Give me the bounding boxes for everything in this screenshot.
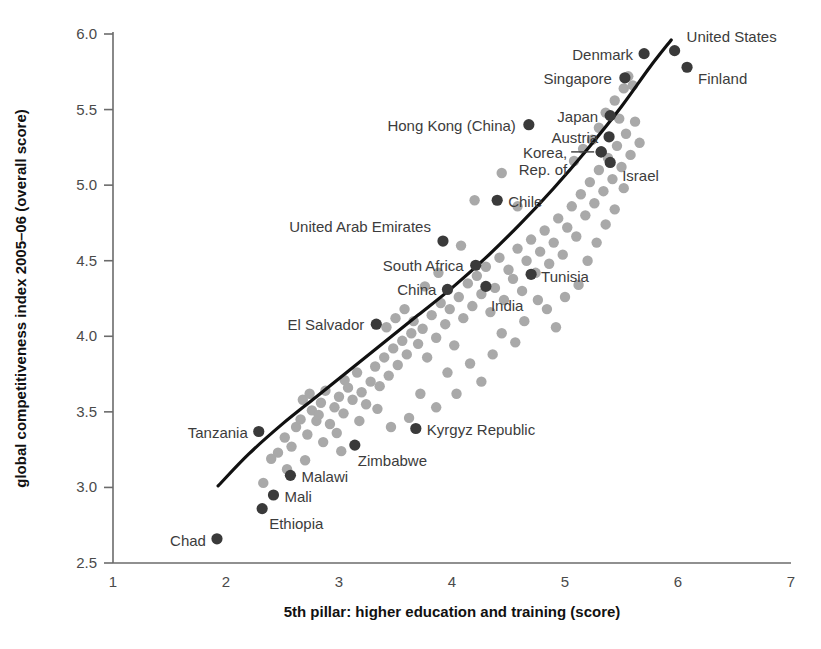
data-point	[469, 195, 479, 205]
y-tick-label: 3.0	[76, 478, 97, 495]
country-label: Mali	[284, 488, 312, 505]
data-point	[370, 361, 380, 371]
country-label: Kyrgyz Republic	[427, 421, 536, 438]
highlighted-data-point	[470, 260, 481, 271]
highlighted-data-point	[253, 426, 264, 437]
data-point	[630, 116, 640, 126]
data-point	[521, 256, 531, 266]
data-point	[415, 389, 425, 399]
x-tick-label: 7	[787, 573, 795, 590]
data-point	[406, 328, 416, 338]
data-point	[413, 339, 423, 349]
scatter-chart: 2.53.03.54.04.55.05.56.0 1234567 United …	[0, 0, 821, 649]
x-tick-label: 6	[674, 573, 682, 590]
country-label: Malawi	[301, 468, 348, 485]
y-tick-label: 6.0	[76, 25, 97, 42]
data-point	[634, 138, 644, 148]
data-point	[454, 292, 464, 302]
data-point	[497, 168, 507, 178]
x-tick-label: 2	[222, 573, 230, 590]
country-label: Tanzania	[188, 424, 249, 441]
data-point	[280, 432, 290, 442]
x-tick-label: 5	[561, 573, 569, 590]
data-point	[533, 295, 543, 305]
data-point	[365, 376, 375, 386]
x-tick-label: 4	[448, 573, 456, 590]
country-label: Ethiopia	[269, 515, 324, 532]
data-point	[585, 177, 595, 187]
data-point	[508, 274, 518, 284]
data-point	[510, 337, 520, 347]
highlighted-data-point	[523, 119, 534, 130]
country-label: India	[491, 297, 524, 314]
country-label: United Arab Emirates	[289, 218, 431, 235]
data-point	[404, 413, 414, 423]
country-label: Singapore	[543, 70, 611, 87]
data-point	[318, 437, 328, 447]
data-point	[487, 349, 497, 359]
country-label: Hong Kong (China)	[387, 117, 515, 134]
country-label: Japan	[557, 108, 598, 125]
country-label: Chad	[170, 532, 206, 549]
data-point	[591, 237, 601, 247]
data-point	[393, 360, 403, 370]
data-point	[598, 186, 608, 196]
data-point	[325, 419, 335, 429]
y-tick-label: 2.5	[76, 554, 97, 571]
data-point	[313, 410, 323, 420]
data-point	[494, 252, 504, 262]
data-point	[381, 322, 391, 332]
data-point	[379, 352, 389, 362]
data-point	[612, 141, 622, 151]
data-point	[300, 455, 310, 465]
data-point	[600, 219, 610, 229]
data-point	[458, 313, 468, 323]
highlighted-data-point	[371, 319, 382, 330]
data-point	[316, 398, 326, 408]
country-label: South Africa	[383, 257, 465, 274]
x-axis-ticks: 1234567	[109, 573, 795, 590]
data-point	[431, 333, 441, 343]
data-point	[567, 201, 577, 211]
highlighted-data-point	[492, 195, 503, 206]
data-point	[354, 416, 364, 426]
data-point	[560, 292, 570, 302]
data-point	[456, 240, 466, 250]
data-point	[503, 265, 513, 275]
data-point	[390, 313, 400, 323]
data-point	[422, 352, 432, 362]
country-label: Zimbabwe	[358, 452, 427, 469]
country-label: Israel	[622, 167, 659, 184]
country-label: Denmark	[572, 46, 633, 63]
data-point	[517, 286, 527, 296]
data-point	[553, 213, 563, 223]
data-point	[589, 198, 599, 208]
data-point	[549, 237, 559, 247]
country-label: United States	[687, 28, 777, 45]
data-point-labels: United StatesDenmarkFinlandSingaporeJapa…	[170, 28, 777, 549]
y-tick-label: 4.0	[76, 327, 97, 344]
country-label: China	[397, 281, 437, 298]
data-point	[619, 183, 629, 193]
data-point	[286, 441, 296, 451]
country-label: Rep. of	[519, 161, 568, 178]
data-point	[558, 249, 568, 259]
data-point	[336, 446, 346, 456]
data-point	[472, 271, 482, 281]
data-point	[551, 322, 561, 332]
data-point	[426, 310, 436, 320]
data-point	[625, 150, 635, 160]
data-point	[451, 389, 461, 399]
data-point	[539, 225, 549, 235]
data-point	[571, 231, 581, 241]
y-tick-label: 5.0	[76, 176, 97, 193]
highlighted-data-point	[669, 45, 680, 56]
highlighted-data-point	[285, 470, 296, 481]
data-point	[334, 392, 344, 402]
highlighted-data-point	[257, 503, 268, 514]
data-point	[347, 395, 357, 405]
highlighted-data-point	[410, 423, 421, 434]
highlighted-data-point	[268, 489, 279, 500]
x-axis-title: 5th pillar: higher education and trainin…	[284, 603, 621, 620]
data-point	[332, 428, 342, 438]
